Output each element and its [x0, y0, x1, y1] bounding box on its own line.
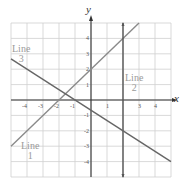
graph-figure: y x -4-3-2-11344321-1-2-3-4 Line 3 Line …	[0, 0, 185, 187]
x-axis-label: x	[174, 93, 179, 104]
line-1-label: Line 1	[21, 141, 39, 161]
x-tick-label: -4	[22, 103, 27, 109]
line-2-label: Line 2	[125, 73, 143, 93]
y-axis-label: y	[86, 4, 91, 15]
x-tick-label: 1	[106, 103, 109, 109]
y-tick-label: -4	[84, 159, 89, 165]
line-1-label-number: 1	[21, 151, 39, 161]
y-tick-label: -2	[84, 128, 89, 134]
y-tick-label: 2	[86, 66, 89, 72]
y-tick-label: -3	[84, 143, 89, 149]
y-tick-label: 1	[86, 82, 89, 88]
x-tick-label: -2	[54, 103, 59, 109]
y-tick-label: 4	[86, 35, 89, 41]
y-axis-arrow-icon	[89, 15, 93, 21]
line-3-label-number: 3	[12, 54, 30, 64]
x-tick-label: 4	[154, 103, 157, 109]
x-tick-label: 3	[138, 103, 141, 109]
y-tick-label: 3	[86, 51, 89, 57]
line-3-label: Line 3	[12, 44, 30, 64]
y-tick-label: -1	[84, 112, 89, 118]
x-tick-label: -1	[70, 103, 75, 109]
line-2-label-number: 2	[125, 83, 143, 93]
x-tick-label: -3	[38, 103, 43, 109]
